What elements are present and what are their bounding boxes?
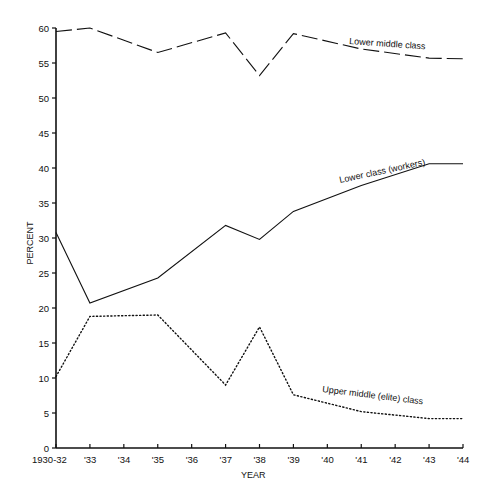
series-label-2: Upper middle (elite) class [322,384,424,406]
series-label-1: Lower class (workers) [338,157,426,185]
x-tick-label: '39 [287,454,299,465]
x-tick-label: '35 [152,454,164,465]
y-tick-label: 30 [38,233,49,244]
y-tick-label: 55 [38,58,49,69]
y-tick-label: 45 [38,128,49,139]
x-tick-label: '38 [254,454,266,465]
x-tick-label: '42 [389,454,401,465]
series-label-0: Lower middle class [349,36,427,51]
y-tick-label: 5 [44,408,49,419]
x-tick-label: '44 [457,454,469,465]
x-tick-label: '41 [355,454,367,465]
y-tick-label: 60 [38,23,49,34]
y-tick-label: 40 [38,163,49,174]
x-tick-label: 1930-32 [32,454,67,465]
y-tick-label: 0 [44,443,49,454]
x-tick-label: '33 [84,454,96,465]
y-tick-label: 15 [38,338,49,349]
series-labels: Lower middle classLower class (workers)U… [322,36,427,406]
line-chart: 0510152025303540455055601930-32'33'34'35… [0,0,489,495]
x-axis-title: YEAR [241,470,266,480]
y-tick-label: 50 [38,93,49,104]
x-tick-label: '37 [220,454,232,465]
x-tick-label: '34 [118,454,130,465]
y-tick-label: 10 [38,373,49,384]
series-line-0 [56,28,463,76]
x-tick-label: '40 [321,454,333,465]
x-tick-label: '36 [186,454,198,465]
x-tick-label: '43 [423,454,435,465]
y-axis-title: PERCENT [25,221,35,265]
y-tick-label: 35 [38,198,49,209]
y-tick-label: 20 [38,303,49,314]
series-lines [56,28,463,419]
series-line-1 [56,164,463,303]
y-tick-label: 25 [38,268,49,279]
